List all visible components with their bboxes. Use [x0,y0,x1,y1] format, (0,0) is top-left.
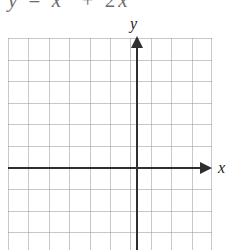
worksheet-page: y = x2 + 2x y x [0,0,234,250]
y-axis-arrow-icon [131,36,143,48]
equation-clip: y = x2 + 2x [0,0,234,15]
equation-term2: x [118,0,130,12]
x-axis-label: x [218,160,225,176]
equation-equals: = [29,0,44,12]
equation-term1-base: x [52,0,64,12]
coordinate-graph: y x [8,38,212,250]
equation-lhs: y [8,0,20,12]
graph-gridlines [8,38,212,250]
x-axis-arrow-icon [200,162,212,174]
equation-plus: + [82,0,97,12]
equation-coefficient: 2 [105,0,119,12]
y-axis-label: y [130,16,137,32]
y-axis-line [136,47,138,250]
equation-text: y = x2 + 2x [8,0,131,13]
x-axis-line [8,167,204,169]
equation-term1-exponent: 2 [64,0,74,2]
graph-grid-right-edge [211,38,212,250]
